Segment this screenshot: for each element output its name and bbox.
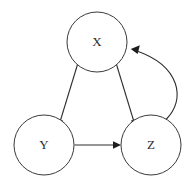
node-z[interactable]: Z bbox=[121, 115, 181, 175]
edge-x-to-y-line bbox=[60, 65, 78, 124]
node-z-label: Z bbox=[147, 137, 155, 152]
edge-z-to-x bbox=[131, 45, 177, 119]
node-y[interactable]: Y bbox=[14, 115, 74, 175]
node-y-label: Y bbox=[39, 137, 49, 152]
edge-y-to-z bbox=[75, 141, 122, 149]
directed-graph-diagram: X Y Z bbox=[0, 0, 196, 190]
edge-z-to-x-curve bbox=[136, 51, 178, 120]
edge-x-to-z-line bbox=[117, 65, 135, 124]
edge-y-to-z-arrowhead bbox=[113, 141, 121, 149]
edge-z-to-x-arrowhead bbox=[131, 45, 140, 54]
node-x[interactable]: X bbox=[67, 12, 127, 72]
graph-canvas: X Y Z bbox=[0, 0, 196, 190]
node-x-label: X bbox=[92, 34, 102, 49]
